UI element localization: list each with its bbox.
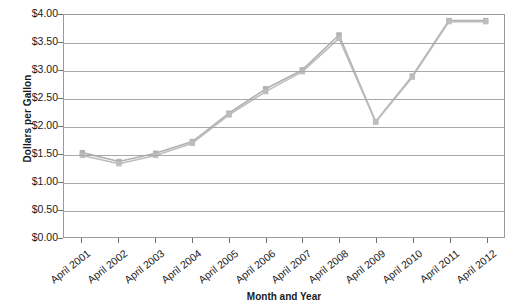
y-axis-tick [58,238,63,239]
gridline [64,71,504,72]
y-axis-tick-labels: $0.00$0.50$1.00$1.50$2.00$2.50$3.00$3.50… [6,0,58,307]
y-axis-tick-label: $4.00 [6,7,58,19]
x-axis-tick [118,238,119,243]
y-axis-tick-label: $1.00 [6,175,58,187]
x-axis-tick [487,238,488,243]
y-axis-tick-label: $0.50 [6,203,58,215]
x-axis-title: Month and Year [63,291,505,302]
gridline [64,211,504,212]
data-series-group [64,15,504,237]
gridline [64,99,504,100]
data-point-marker [337,36,341,40]
y-axis-tick [58,126,63,127]
y-axis-tick [58,14,63,15]
data-point-marker [483,19,487,23]
data-point-marker [373,120,377,124]
data-point-marker [263,89,267,93]
data-line [82,21,485,162]
data-point-marker [190,141,194,145]
x-axis-tick [450,238,451,243]
line-chart: Dollars per Gallon $0.00$0.50$1.00$1.50$… [0,0,527,307]
y-axis-tick [58,210,63,211]
plot-area [63,14,505,238]
x-axis-tick [81,238,82,243]
x-axis-tick [229,238,230,243]
y-axis-tick [58,182,63,183]
y-axis-tick-label: $0.00 [6,231,58,243]
x-axis-tick [302,238,303,243]
data-point-marker [227,113,231,117]
y-axis-tick [58,98,63,99]
y-axis-tick-label: $2.00 [6,119,58,131]
x-axis-tick [339,238,340,243]
y-axis-tick [58,70,63,71]
gridline [64,43,504,44]
y-axis-tick [58,154,63,155]
y-axis-tick-label: $3.50 [6,35,58,47]
y-axis-tick [58,42,63,43]
gridline [64,183,504,184]
gridline [64,155,504,156]
x-axis-tick [413,238,414,243]
x-axis-tick [192,238,193,243]
data-point-marker [117,162,121,166]
data-point-marker [447,19,451,23]
y-axis-tick-label: $3.00 [6,63,58,75]
data-point-marker [410,75,414,79]
y-axis-tick-label: $1.50 [6,147,58,159]
x-axis-tick [155,238,156,243]
x-axis-tick [376,238,377,243]
x-axis-tick [266,238,267,243]
y-axis-tick-label: $2.50 [6,91,58,103]
gridline [64,127,504,128]
